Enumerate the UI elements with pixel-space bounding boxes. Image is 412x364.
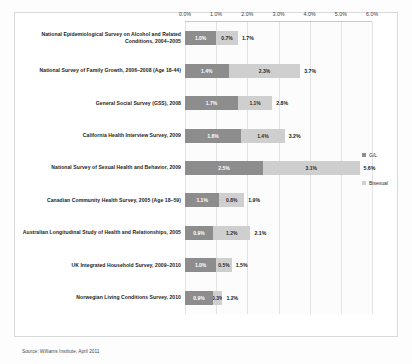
x-axis-tick-labels: 0.0%1.0%2.0%3.0%4.0%5.0%6.0% xyxy=(175,11,385,21)
category-label: California Health Interview Survey, 2009 xyxy=(18,132,181,139)
x-tick-label: 6.0% xyxy=(366,11,378,17)
chart-row: California Health Interview Survey, 2009… xyxy=(14,119,398,151)
legend-label: G/L xyxy=(369,152,377,158)
stacked-bar[interactable]: 1.4%2.3%3.7% xyxy=(185,64,316,78)
bar-segment-g-l[interactable]: 2.5% xyxy=(185,161,263,175)
x-tick-label: 3.0% xyxy=(272,11,284,17)
bar-segment-bisexual[interactable]: 2.3% xyxy=(229,64,301,78)
x-tick-label: 5.0% xyxy=(335,11,347,17)
category-label: Norwegian Living Conditions Survey, 2010 xyxy=(18,294,181,301)
bar-segment-g-l[interactable]: 1.1% xyxy=(185,193,219,207)
bar-segment-bisexual[interactable]: 1.1% xyxy=(238,96,272,110)
bar-segment-g-l[interactable]: 1.0% xyxy=(185,258,216,272)
stacked-bar[interactable]: 0.9%0.3%1.2% xyxy=(185,291,238,305)
bar-segment-g-l[interactable]: 1.8% xyxy=(185,129,241,143)
bar-total-label: 1.9% xyxy=(248,197,260,203)
legend-swatch xyxy=(362,181,366,185)
stacked-bar[interactable]: 0.9%1.2%2.1% xyxy=(185,226,266,240)
category-label: Canadian Community Health Survey, 2005 (… xyxy=(18,197,181,204)
chart-row: Norwegian Living Conditions Survey, 2010… xyxy=(14,282,398,314)
chart-row: UK Integrated Household Survey, 2009–201… xyxy=(14,249,398,281)
category-label: National Survey of Sexual Health and Beh… xyxy=(18,164,181,171)
stacked-bar[interactable]: 1.7%1.1%2.8% xyxy=(185,96,288,110)
bar-segment-g-l[interactable]: 0.9% xyxy=(185,226,213,240)
bar-segment-bisexual[interactable]: 1.2% xyxy=(213,226,250,240)
bar-total-label: 2.1% xyxy=(254,230,266,236)
x-tick-label: 0.0% xyxy=(179,11,191,17)
bar-total-label: 1.5% xyxy=(236,262,248,268)
bar-total-label: 2.8% xyxy=(276,100,288,106)
source-note: Source: Williams Institute, April 2011 xyxy=(22,349,100,354)
bar-segment-g-l[interactable]: 1.7% xyxy=(185,96,238,110)
chart-row: General Social Survey (GSS), 20081.7%1.1… xyxy=(14,87,398,119)
chart-row: National Epidemiological Survey on Alcoh… xyxy=(14,22,398,54)
bar-total-label: 3.7% xyxy=(304,68,316,74)
bar-segment-g-l[interactable]: 1.4% xyxy=(185,64,229,78)
stacked-bar[interactable]: 1.8%1.4%3.2% xyxy=(185,129,301,143)
bar-total-label: 3.2% xyxy=(289,133,301,139)
legend-swatch xyxy=(362,153,366,157)
chart-row: National Survey of Sexual Health and Beh… xyxy=(14,152,398,184)
stacked-bar[interactable]: 1.0%0.5%1.5% xyxy=(185,258,248,272)
category-label: General Social Survey (GSS), 2008 xyxy=(18,100,181,107)
bar-segment-bisexual[interactable]: 3.1% xyxy=(263,161,360,175)
bar-segment-bisexual[interactable]: 0.3% xyxy=(213,291,222,305)
x-tick-label: 1.0% xyxy=(210,11,222,17)
chart-row: National Survey of Family Growth, 2006–2… xyxy=(14,54,398,86)
bar-segment-bisexual[interactable]: 0.5% xyxy=(216,258,232,272)
chart-row: Canadian Community Health Survey, 2005 (… xyxy=(14,184,398,216)
legend-item[interactable]: Bisexual xyxy=(362,180,406,186)
x-tick-label: 2.0% xyxy=(241,11,253,17)
category-label: UK Integrated Household Survey, 2009–201… xyxy=(18,262,181,269)
bar-segment-g-l[interactable]: 0.9% xyxy=(185,291,213,305)
stacked-bar[interactable]: 1.0%0.7%1.7% xyxy=(185,31,254,45)
category-label: Australian Longitudinal Study of Health … xyxy=(18,229,181,236)
bar-segment-g-l[interactable]: 1.0% xyxy=(185,31,216,45)
category-label: National Epidemiological Survey on Alcoh… xyxy=(18,31,181,45)
bar-rows: National Epidemiological Survey on Alcoh… xyxy=(14,22,398,314)
bar-total-label: 1.2% xyxy=(226,295,238,301)
legend-item[interactable]: G/L xyxy=(362,152,406,158)
legend-label: Bisexual xyxy=(369,180,388,186)
bar-segment-bisexual[interactable]: 1.4% xyxy=(241,129,285,143)
category-label: National Survey of Family Growth, 2006–2… xyxy=(18,67,181,74)
stacked-bar[interactable]: 1.1%0.8%1.9% xyxy=(185,193,260,207)
chart-figure: 0.0%1.0%2.0%3.0%4.0%5.0%6.0% National Ep… xyxy=(0,0,412,364)
bar-segment-bisexual[interactable]: 0.7% xyxy=(216,31,238,45)
chart-legend: G/LBisexual xyxy=(362,152,406,208)
stacked-bar[interactable]: 2.5%3.1%5.6% xyxy=(185,161,375,175)
x-tick-label: 4.0% xyxy=(304,11,316,17)
bar-total-label: 1.7% xyxy=(242,35,254,41)
bar-segment-bisexual[interactable]: 0.8% xyxy=(219,193,244,207)
chart-row: Australian Longitudinal Study of Health … xyxy=(14,217,398,249)
